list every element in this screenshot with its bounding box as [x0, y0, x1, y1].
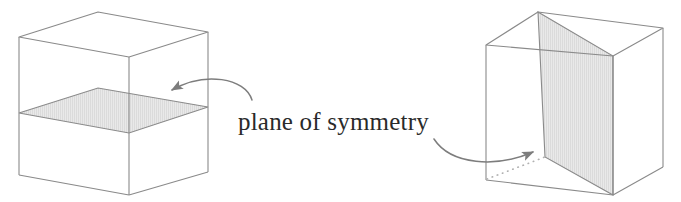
plane-of-symmetry-diagram: plane of symmetry [0, 0, 681, 202]
figure-container: plane of symmetry [0, 0, 681, 202]
hidden-edge-dotted [487, 157, 545, 179]
arrow-to-diagonal-plane [434, 139, 533, 162]
arrow-to-horizontal-plane [172, 79, 252, 100]
diagonal-plane-of-symmetry [538, 12, 613, 195]
right-cube [486, 12, 663, 195]
horizontal-plane-of-symmetry [19, 88, 208, 133]
caption-plane-of-symmetry: plane of symmetry [238, 108, 429, 135]
left-cube [19, 12, 208, 195]
